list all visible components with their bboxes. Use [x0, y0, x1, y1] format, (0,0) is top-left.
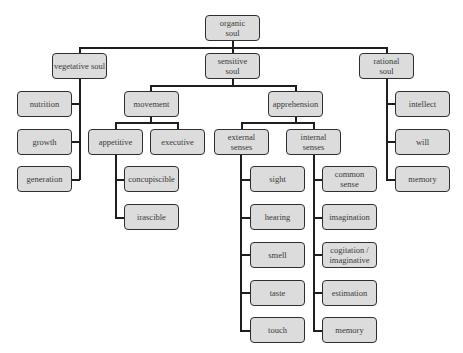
connector: [71, 103, 80, 105]
node-irascible: irascible: [124, 204, 179, 230]
node-vegetative-soul: vegetative soul: [52, 53, 107, 79]
node-touch: touch: [250, 317, 305, 343]
node-will: will: [395, 129, 450, 155]
connector: [115, 122, 178, 124]
node-rational-soul: rational soul: [359, 53, 414, 79]
node-appetitive: appetitive: [88, 129, 143, 155]
node-concupiscible: concupiscible: [124, 166, 179, 192]
node-intellect: intellect: [395, 91, 450, 117]
connector: [79, 78, 81, 180]
node-external-senses: external senses: [214, 129, 269, 155]
node-movement: movement: [124, 91, 179, 117]
node-common-sense: common sense: [322, 166, 377, 192]
node-apprehension: apprehension: [268, 91, 323, 117]
node-generation: generation: [17, 166, 72, 192]
node-sight: sight: [250, 166, 305, 192]
connector: [150, 85, 296, 87]
connector: [71, 179, 80, 181]
connector: [71, 141, 80, 143]
node-smell: smell: [250, 242, 305, 268]
node-cogitation-imaginative: cogitation / imaginative: [322, 242, 377, 268]
node-sensitive-soul: sensitive soul: [205, 53, 260, 79]
connector: [115, 154, 117, 218]
node-hearing: hearing: [250, 204, 305, 230]
node-growth: growth: [17, 129, 72, 155]
node-internal-senses: internal senses: [286, 129, 341, 155]
node-taste: taste: [250, 280, 305, 306]
node-memory-rational: memory: [395, 166, 450, 192]
node-organic-soul: organic soul: [205, 15, 260, 41]
node-estimation: estimation: [322, 280, 377, 306]
node-memory-internal: memory: [322, 317, 377, 343]
node-executive: executive: [150, 129, 205, 155]
node-nutrition: nutrition: [17, 91, 72, 117]
connector: [241, 122, 314, 124]
node-imagination: imagination: [322, 204, 377, 230]
soul-hierarchy-diagram: organic soul vegetative soul sensitive s…: [0, 0, 463, 353]
connector: [386, 78, 388, 180]
